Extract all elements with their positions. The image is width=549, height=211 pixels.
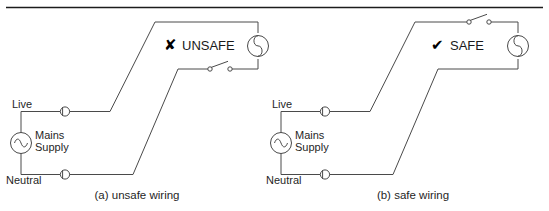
b-neutral-terminal-circle bbox=[320, 170, 329, 179]
b-switch-blade bbox=[470, 14, 487, 20]
a-source-label-line2: Supply bbox=[35, 141, 69, 153]
b-live-terminal-symbol bbox=[320, 107, 329, 116]
b-live-label: Live bbox=[272, 98, 292, 110]
b-source-label-line2: Supply bbox=[295, 141, 329, 153]
a-verdict-label: UNSAFE bbox=[182, 38, 235, 53]
circuit-diagram-svg: Mains Supply Live Neutral bbox=[0, 0, 549, 211]
b-mains-supply-symbol bbox=[271, 133, 292, 154]
diagram-a-unsafe-wiring: Mains Supply Live Neutral bbox=[6, 22, 269, 201]
b-switch-fixed-contact bbox=[487, 20, 491, 24]
b-lamp-symbol bbox=[508, 36, 529, 57]
b-verdict-mark-icon: ✔ bbox=[431, 36, 444, 54]
a-switch-blade bbox=[211, 61, 228, 67]
a-caption: (a) unsafe wiring bbox=[94, 189, 179, 201]
a-live-terminal-symbol bbox=[60, 107, 69, 116]
a-neutral-stub-wire bbox=[21, 154, 60, 175]
wiring-comparison-figure: Mains Supply Live Neutral bbox=[0, 0, 549, 211]
b-verdict-label: SAFE bbox=[450, 38, 484, 53]
b-live-conductor-wire-left bbox=[330, 22, 467, 112]
a-live-terminal-circle bbox=[60, 107, 69, 116]
a-live-label: Live bbox=[12, 98, 32, 110]
b-live-terminal-circle bbox=[320, 107, 329, 116]
a-verdict-mark-icon: ✘ bbox=[164, 36, 177, 54]
a-switch-symbol[interactable] bbox=[208, 61, 232, 71]
b-neutral-conductor-wire bbox=[330, 59, 518, 175]
a-lamp-symbol bbox=[248, 36, 269, 57]
a-neutral-conductor-wire-right bbox=[232, 59, 258, 69]
b-live-conductor-wire-right bbox=[491, 22, 518, 33]
b-source-label-line1: Mains bbox=[295, 129, 325, 141]
a-neutral-terminal-circle bbox=[60, 170, 69, 179]
b-neutral-label: Neutral bbox=[266, 174, 301, 186]
a-source-label-line1: Mains bbox=[35, 129, 65, 141]
a-switch-fixed-contact bbox=[228, 67, 232, 71]
b-neutral-terminal-symbol bbox=[320, 170, 329, 179]
b-switch-symbol[interactable] bbox=[467, 14, 491, 24]
a-neutral-conductor-wire-left bbox=[70, 69, 208, 175]
diagram-b-safe-wiring: Mains Supply Live Neutral bbox=[266, 14, 529, 201]
a-neutral-label: Neutral bbox=[6, 174, 41, 186]
a-neutral-terminal-symbol bbox=[60, 170, 69, 179]
a-mains-supply-symbol bbox=[11, 133, 32, 154]
b-caption: (b) safe wiring bbox=[377, 189, 449, 201]
b-neutral-stub-wire bbox=[281, 154, 320, 175]
